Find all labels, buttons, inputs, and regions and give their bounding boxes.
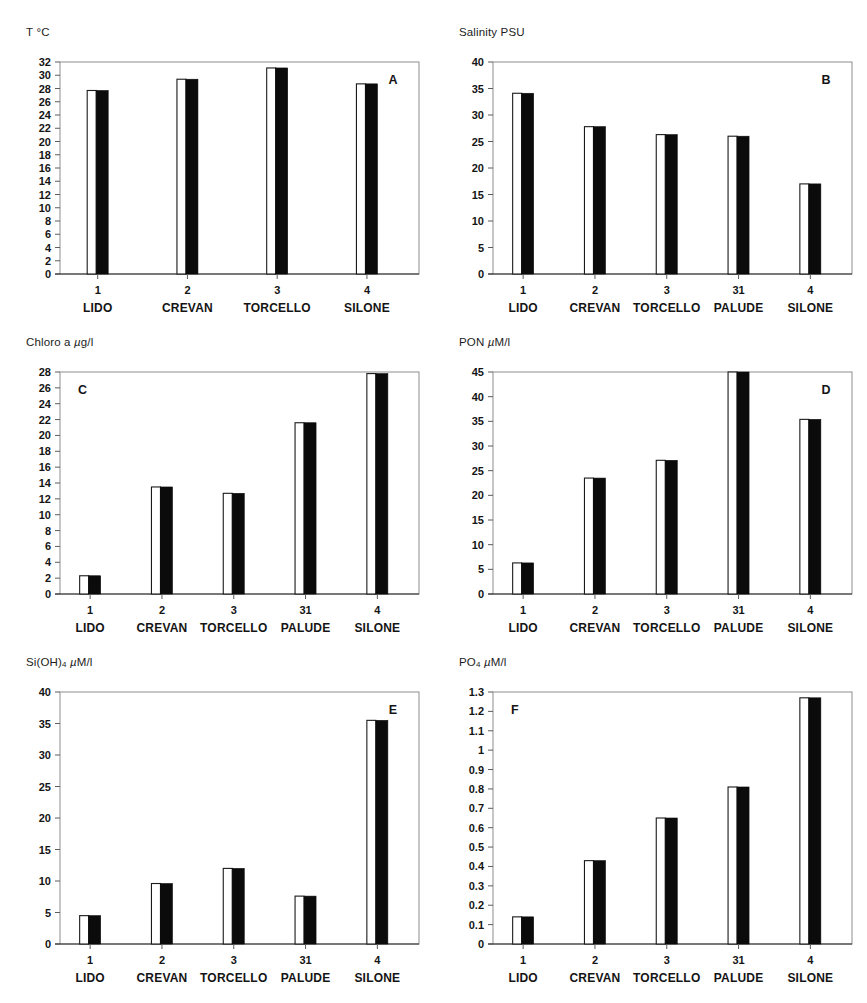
bar-group (356, 84, 377, 274)
bar-group (151, 884, 172, 944)
x-category-label: LIDO (75, 971, 104, 985)
x-category-label: LIDO (75, 621, 104, 635)
bar-black (160, 884, 172, 944)
y-tick-label: 14 (39, 175, 52, 187)
bar-white (513, 917, 522, 944)
y-tick-label: 20 (39, 136, 51, 148)
x-category-label: CREVAN (569, 621, 620, 635)
panel-d-axis-title: PON µM/l (459, 336, 510, 348)
y-tick-label: 45 (472, 366, 484, 378)
x-category-label: SILONE (787, 971, 833, 985)
y-tick-label: 12 (39, 189, 51, 201)
panel-a: T °C 024681012141618202224262830321LIDO2… (0, 22, 434, 330)
bar-white (513, 93, 522, 274)
x-category-number: 4 (807, 604, 814, 616)
x-category-label: CREVAN (569, 971, 620, 985)
bar-group (295, 896, 316, 944)
bar-white (728, 372, 737, 594)
y-tick-label: 18 (39, 149, 51, 161)
x-category-label: PALUDE (281, 971, 331, 985)
x-category-label: LIDO (508, 971, 537, 985)
y-tick-label: 24 (39, 398, 52, 410)
bar-black (809, 184, 821, 274)
bar-white (223, 868, 232, 944)
y-tick-label: 0 (478, 938, 484, 950)
bar-group (295, 423, 316, 594)
bar-white (584, 861, 593, 944)
bar-black (665, 460, 677, 594)
y-tick-label: 20 (39, 429, 51, 441)
bar-group (728, 136, 749, 274)
bar-white (656, 135, 665, 274)
bar-black (232, 493, 244, 594)
bar-white (800, 184, 809, 274)
y-tick-label: 26 (39, 382, 51, 394)
x-category-number: 4 (807, 954, 814, 966)
x-category-number: 31 (732, 284, 744, 296)
panel-letter: D (821, 383, 830, 397)
y-tick-label: 2 (45, 572, 51, 584)
y-tick-label: 0.2 (469, 899, 484, 911)
x-category-label: PALUDE (281, 621, 331, 635)
panel-b: Salinity PSU 05101520253035401LIDO2CREVA… (433, 22, 867, 330)
y-tick-label: 35 (472, 415, 484, 427)
bar-group (584, 861, 605, 944)
x-category-label: CREVAN (569, 301, 620, 315)
bar-group (584, 127, 605, 274)
x-category-number: 1 (87, 604, 93, 616)
x-category-number: 3 (274, 284, 280, 296)
bar-group (223, 493, 244, 594)
panel-c-chart: 02468101214161820222426281LIDO2CREVAN3TO… (0, 358, 434, 650)
y-tick-label: 28 (39, 366, 51, 378)
bar-group (223, 868, 244, 944)
y-tick-label: 0 (45, 938, 51, 950)
x-category-number: 4 (807, 284, 814, 296)
bar-black (809, 698, 821, 944)
y-tick-label: 15 (472, 189, 484, 201)
x-category-number: 1 (520, 604, 526, 616)
y-tick-label: 30 (472, 440, 484, 452)
bar-black (186, 79, 198, 274)
y-tick-label: 30 (39, 749, 51, 761)
panel-c-plot: 02468101214161820222426281LIDO2CREVAN3TO… (0, 358, 434, 650)
bar-group (177, 79, 198, 274)
x-category-label: PALUDE (714, 301, 764, 315)
y-tick-label: 16 (39, 461, 51, 473)
y-tick-label: 35 (39, 718, 51, 730)
y-tick-label: 0.8 (469, 783, 484, 795)
y-tick-label: 15 (39, 844, 51, 856)
y-tick-label: 0 (45, 588, 51, 600)
bar-black (593, 478, 605, 594)
bar-black (737, 136, 749, 274)
panel-letter: F (511, 703, 519, 717)
x-category-number: 4 (364, 284, 371, 296)
scan-speck (838, 747, 845, 750)
y-tick-label: 6 (45, 228, 51, 240)
panel-f: PO4 µM/l 00.10.20.30.40.50.60.70.80.911.… (433, 652, 867, 1000)
x-category-number: 2 (184, 284, 190, 296)
y-tick-label: 0.1 (469, 919, 484, 931)
bar-white (800, 419, 809, 594)
bar-white (87, 90, 96, 274)
x-category-number: 31 (299, 604, 311, 616)
bar-group (367, 374, 388, 594)
bar-group (87, 90, 108, 274)
bar-group (656, 135, 677, 274)
bar-white (656, 818, 665, 944)
y-tick-label: 10 (39, 202, 51, 214)
x-category-label: TORCELLO (633, 301, 700, 315)
bar-group (656, 460, 677, 594)
x-category-number: 3 (231, 954, 237, 966)
y-tick-label: 0 (478, 268, 484, 280)
x-category-number: 31 (732, 604, 744, 616)
bar-white (80, 576, 89, 594)
bar-white (584, 478, 593, 594)
x-category-number: 2 (159, 604, 165, 616)
panel-a-axis-title: T °C (26, 26, 50, 38)
y-tick-label: 0.5 (469, 841, 484, 853)
x-category-number: 31 (732, 954, 744, 966)
y-tick-label: 18 (39, 445, 51, 457)
bar-group (151, 487, 172, 594)
bar-group (80, 916, 101, 944)
bar-group (728, 372, 749, 594)
